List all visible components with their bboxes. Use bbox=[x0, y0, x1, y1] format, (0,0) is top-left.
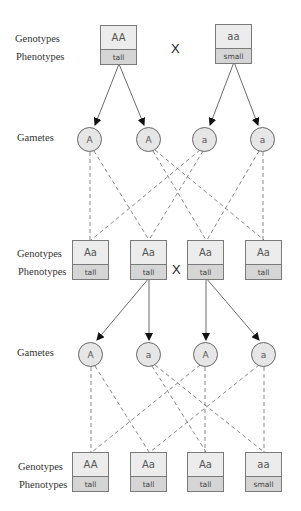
genotype-cell: Aa bbox=[131, 241, 166, 265]
f2-box-3: Aa tall bbox=[187, 452, 224, 492]
genotype-cell: Aa bbox=[131, 453, 166, 477]
f2-box-4: aa small bbox=[245, 452, 282, 492]
f1-box-2: Aa tall bbox=[130, 240, 167, 280]
genotype-cell: Aa bbox=[188, 453, 223, 477]
phenotypes-label: Phenotypes bbox=[18, 266, 66, 277]
phenotypes-label: Phenotypes bbox=[16, 51, 64, 62]
f2-box-2: Aa tall bbox=[130, 452, 167, 492]
gamete-circle: a bbox=[250, 127, 275, 152]
genotype-cell: Aa bbox=[73, 241, 108, 265]
genotypes-label: Genotypes bbox=[15, 33, 60, 44]
gamete-circle: A bbox=[136, 127, 161, 152]
phenotype-cell: tall bbox=[131, 477, 166, 491]
phenotype-cell: tall bbox=[73, 265, 108, 279]
phenotypes-label: Phenotypes bbox=[19, 479, 67, 490]
phenotype-cell: tall bbox=[188, 265, 223, 279]
phenotype-cell: tall bbox=[188, 477, 223, 491]
gametes-label: Gametes bbox=[17, 132, 54, 143]
gamete-circle: A bbox=[193, 342, 218, 367]
genotype-cell: aa bbox=[216, 25, 251, 49]
gamete-circle: a bbox=[192, 127, 217, 152]
parent-box-1: AA tall bbox=[100, 25, 137, 65]
gamete-circle: a bbox=[251, 342, 276, 367]
genotypes-label: Genotypes bbox=[17, 248, 62, 259]
f1-box-3: Aa tall bbox=[187, 240, 224, 280]
phenotype-cell: tall bbox=[246, 265, 281, 279]
phenotype-cell: small bbox=[246, 477, 281, 491]
genotypes-label: Genotypes bbox=[18, 461, 63, 472]
gamete-circle: A bbox=[78, 342, 103, 367]
phenotype-cell: small bbox=[216, 49, 251, 63]
genotype-cell: AA bbox=[73, 453, 108, 477]
parent-box-2: aa small bbox=[215, 24, 252, 64]
f2-box-1: AA tall bbox=[72, 452, 109, 492]
genotype-cell: Aa bbox=[246, 241, 281, 265]
gamete-circle: a bbox=[136, 342, 161, 367]
genotype-cell: aa bbox=[246, 453, 281, 477]
cross-symbol: X bbox=[171, 41, 180, 56]
f1-box-1: Aa tall bbox=[72, 240, 109, 280]
genotype-cell: AA bbox=[101, 26, 136, 50]
phenotype-cell: tall bbox=[101, 50, 136, 64]
cross-symbol: X bbox=[172, 262, 181, 277]
genotype-cell: Aa bbox=[188, 241, 223, 265]
phenotype-cell: tall bbox=[131, 265, 166, 279]
gamete-circle: A bbox=[77, 127, 102, 152]
gametes-label: Gametes bbox=[17, 347, 54, 358]
phenotype-cell: tall bbox=[73, 477, 108, 491]
f1-box-4: Aa tall bbox=[245, 240, 282, 280]
